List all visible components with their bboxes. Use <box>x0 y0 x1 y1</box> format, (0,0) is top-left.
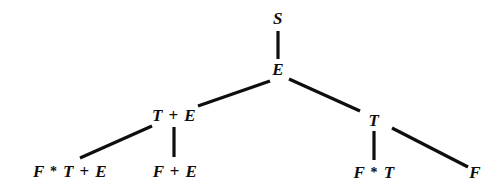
nonterminal-F: F <box>33 162 44 181</box>
nonterminal-T: T <box>384 163 395 182</box>
nonterminal-T: T <box>152 106 163 125</box>
nonterminal-E: E <box>186 162 198 181</box>
plus-operator: + <box>169 162 181 181</box>
tree-node-f-star-t: F * T <box>354 163 395 183</box>
nonterminal-T: T <box>369 111 380 130</box>
nonterminal-F: F <box>153 162 164 181</box>
tree-node-t-right: T <box>369 111 380 131</box>
nonterminal-F: F <box>469 163 481 182</box>
nonterminal-T: T <box>63 162 74 181</box>
edge-e-t <box>289 79 360 111</box>
nonterminal-E: E <box>95 162 107 181</box>
plus-operator: + <box>167 106 179 125</box>
edge-t-f <box>392 128 468 167</box>
nonterminal-E: E <box>184 106 196 125</box>
tree-node-t-plus-e: T + E <box>152 106 196 126</box>
edge-e-tplus <box>198 81 270 106</box>
plus-operator: + <box>79 162 91 181</box>
tree-node-f-star-t-plus-e: F * T + E <box>33 162 107 182</box>
nonterminal-S: S <box>273 9 283 28</box>
edge-tplus-fstartplus <box>80 126 152 158</box>
nonterminal-F: F <box>354 163 365 182</box>
star-operator: * <box>370 165 379 180</box>
tree-node-f-plus-e: F + E <box>153 162 198 182</box>
tree-node-f-leaf: F <box>469 163 481 183</box>
derivation-tree-diagram: SET + ETF * T + EF + EF * TF <box>0 0 503 192</box>
star-operator: * <box>49 164 58 179</box>
tree-node-e1: E <box>272 60 284 80</box>
tree-node-root: S <box>273 9 283 29</box>
nonterminal-E: E <box>272 60 284 79</box>
